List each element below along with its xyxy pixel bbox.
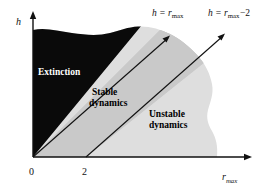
phase-diagram-svg: h rmax 0 2 Extinction Stable dynamics Un… xyxy=(0,0,272,186)
ann2-h: h xyxy=(208,8,213,18)
region-label-stable-line1: Stable xyxy=(92,87,117,97)
y-axis-label: h xyxy=(16,16,21,27)
region-label-unstable-line1: Unstable xyxy=(149,109,185,119)
ann2-eq: = xyxy=(216,8,221,18)
phase-diagram-figure: h rmax 0 2 Extinction Stable dynamics Un… xyxy=(0,0,272,186)
ann1-h: h xyxy=(152,8,157,18)
ann1-sub: max xyxy=(172,12,184,19)
ann2-suffix: −2 xyxy=(240,8,250,18)
x-tick-label-0: 0 xyxy=(29,166,34,177)
region-label-unstable-line2: dynamics xyxy=(149,120,188,130)
ann2-sub: max xyxy=(228,12,240,19)
region-label-extinction: Extinction xyxy=(38,67,81,77)
ann1-eq: = xyxy=(160,8,165,18)
x-tick-label-2: 2 xyxy=(82,166,87,177)
region-label-stable-line2: dynamics xyxy=(89,98,128,108)
x-axis-label-sub: max xyxy=(226,177,237,184)
region-label-unstable: Unstable dynamics xyxy=(149,109,188,130)
